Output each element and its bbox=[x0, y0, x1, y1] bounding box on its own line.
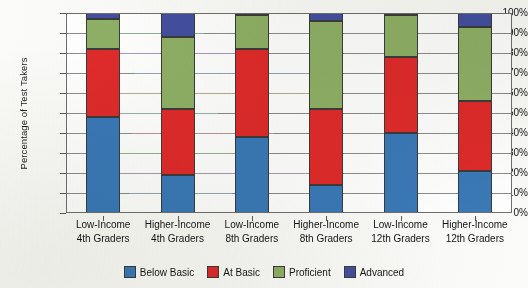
bar-segment-below-basic[interactable] bbox=[161, 175, 195, 213]
x-axis-tick-label-line: Higher-Income bbox=[438, 218, 512, 232]
bar-segment-at-basic[interactable] bbox=[309, 109, 343, 185]
bar-segment-advanced[interactable] bbox=[458, 13, 492, 27]
x-axis-tick-label-line: Higher-Income bbox=[140, 218, 214, 232]
x-axis-tick-label: Low-Income4th Graders bbox=[66, 218, 140, 245]
legend-swatch-icon bbox=[124, 266, 136, 278]
bar-segment-advanced[interactable] bbox=[309, 13, 343, 21]
bar-segment-below-basic[interactable] bbox=[384, 133, 418, 213]
legend-swatch-icon bbox=[344, 266, 356, 278]
bar-stack[interactable] bbox=[458, 13, 492, 213]
legend-label: Proficient bbox=[289, 267, 331, 278]
legend-label: Advanced bbox=[360, 267, 404, 278]
x-axis-tick-label-line: 12th Graders bbox=[363, 232, 437, 246]
x-axis-tick-label-line: 8th Graders bbox=[215, 232, 289, 246]
x-axis-tick-label: Higher-Income8th Graders bbox=[289, 218, 363, 245]
legend-item[interactable]: At Basic bbox=[207, 266, 260, 278]
bar-segment-below-basic[interactable] bbox=[458, 171, 492, 213]
x-axis-tick-label: Higher-Income12th Graders bbox=[438, 218, 512, 245]
bar-segment-below-basic[interactable] bbox=[309, 185, 343, 213]
bar-segment-proficient[interactable] bbox=[384, 15, 418, 57]
scan-fringe bbox=[110, 173, 326, 174]
legend-swatch-icon bbox=[273, 266, 285, 278]
bar-segment-advanced[interactable] bbox=[86, 13, 120, 19]
legend-label: Below Basic bbox=[140, 267, 194, 278]
x-axis-tick-labels: Low-Income4th GradersHigher-Income4th Gr… bbox=[66, 216, 512, 250]
legend-swatch-icon bbox=[207, 266, 219, 278]
bar-segment-advanced[interactable] bbox=[384, 13, 418, 15]
legend-item[interactable]: Proficient bbox=[273, 266, 331, 278]
bar-stack[interactable] bbox=[235, 13, 269, 213]
x-axis-tick-label: Low-Income12th Graders bbox=[363, 218, 437, 245]
plot-area bbox=[66, 13, 512, 213]
legend-item[interactable]: Advanced bbox=[344, 266, 404, 278]
bar-segment-proficient[interactable] bbox=[161, 37, 195, 109]
bar-segment-proficient[interactable] bbox=[458, 27, 492, 101]
x-axis-tick-label-line: Higher-Income bbox=[289, 218, 363, 232]
bar-segment-proficient[interactable] bbox=[86, 19, 120, 49]
chart-legend: Below BasicAt BasicProficientAdvanced bbox=[0, 262, 528, 282]
x-axis-tick-label-line: 12th Graders bbox=[438, 232, 512, 246]
x-axis-tick-label-line: Low-Income bbox=[66, 218, 140, 232]
x-axis-tick-label-line: 4th Graders bbox=[140, 232, 214, 246]
bar-segment-at-basic[interactable] bbox=[161, 109, 195, 175]
legend-item[interactable]: Below Basic bbox=[124, 266, 194, 278]
x-axis-tick-label-line: Low-Income bbox=[363, 218, 437, 232]
bar-segment-at-basic[interactable] bbox=[458, 101, 492, 171]
y-axis-title: Percentage of Test Takers bbox=[18, 39, 29, 189]
x-axis-tick-label: Low-Income8th Graders bbox=[215, 218, 289, 245]
legend-label: At Basic bbox=[223, 267, 260, 278]
bar-segment-below-basic[interactable] bbox=[235, 137, 269, 213]
stacked-bar-chart: Percentage of Test Takers 100%90%80%70%6… bbox=[0, 0, 528, 288]
y-axis-tick-mark bbox=[60, 213, 66, 214]
bar-segment-below-basic[interactable] bbox=[86, 117, 120, 213]
bar-segment-proficient[interactable] bbox=[235, 15, 269, 49]
bar-segment-advanced[interactable] bbox=[235, 13, 269, 15]
x-axis-tick-label: Higher-Income4th Graders bbox=[140, 218, 214, 245]
x-axis-tick-label-line: 4th Graders bbox=[66, 232, 140, 246]
bar-segment-advanced[interactable] bbox=[161, 13, 195, 37]
bar-stack[interactable] bbox=[309, 13, 343, 213]
x-axis-tick-label-line: 8th Graders bbox=[289, 232, 363, 246]
bar-stack[interactable] bbox=[384, 13, 418, 213]
bar-segment-at-basic[interactable] bbox=[235, 49, 269, 137]
scan-fringe bbox=[94, 93, 312, 94]
bar-segment-at-basic[interactable] bbox=[384, 57, 418, 133]
x-axis-tick-label-line: Low-Income bbox=[215, 218, 289, 232]
bar-segment-at-basic[interactable] bbox=[86, 49, 120, 117]
bar-stack[interactable] bbox=[86, 13, 120, 213]
bar-stack[interactable] bbox=[161, 13, 195, 213]
bar-segment-proficient[interactable] bbox=[309, 21, 343, 109]
